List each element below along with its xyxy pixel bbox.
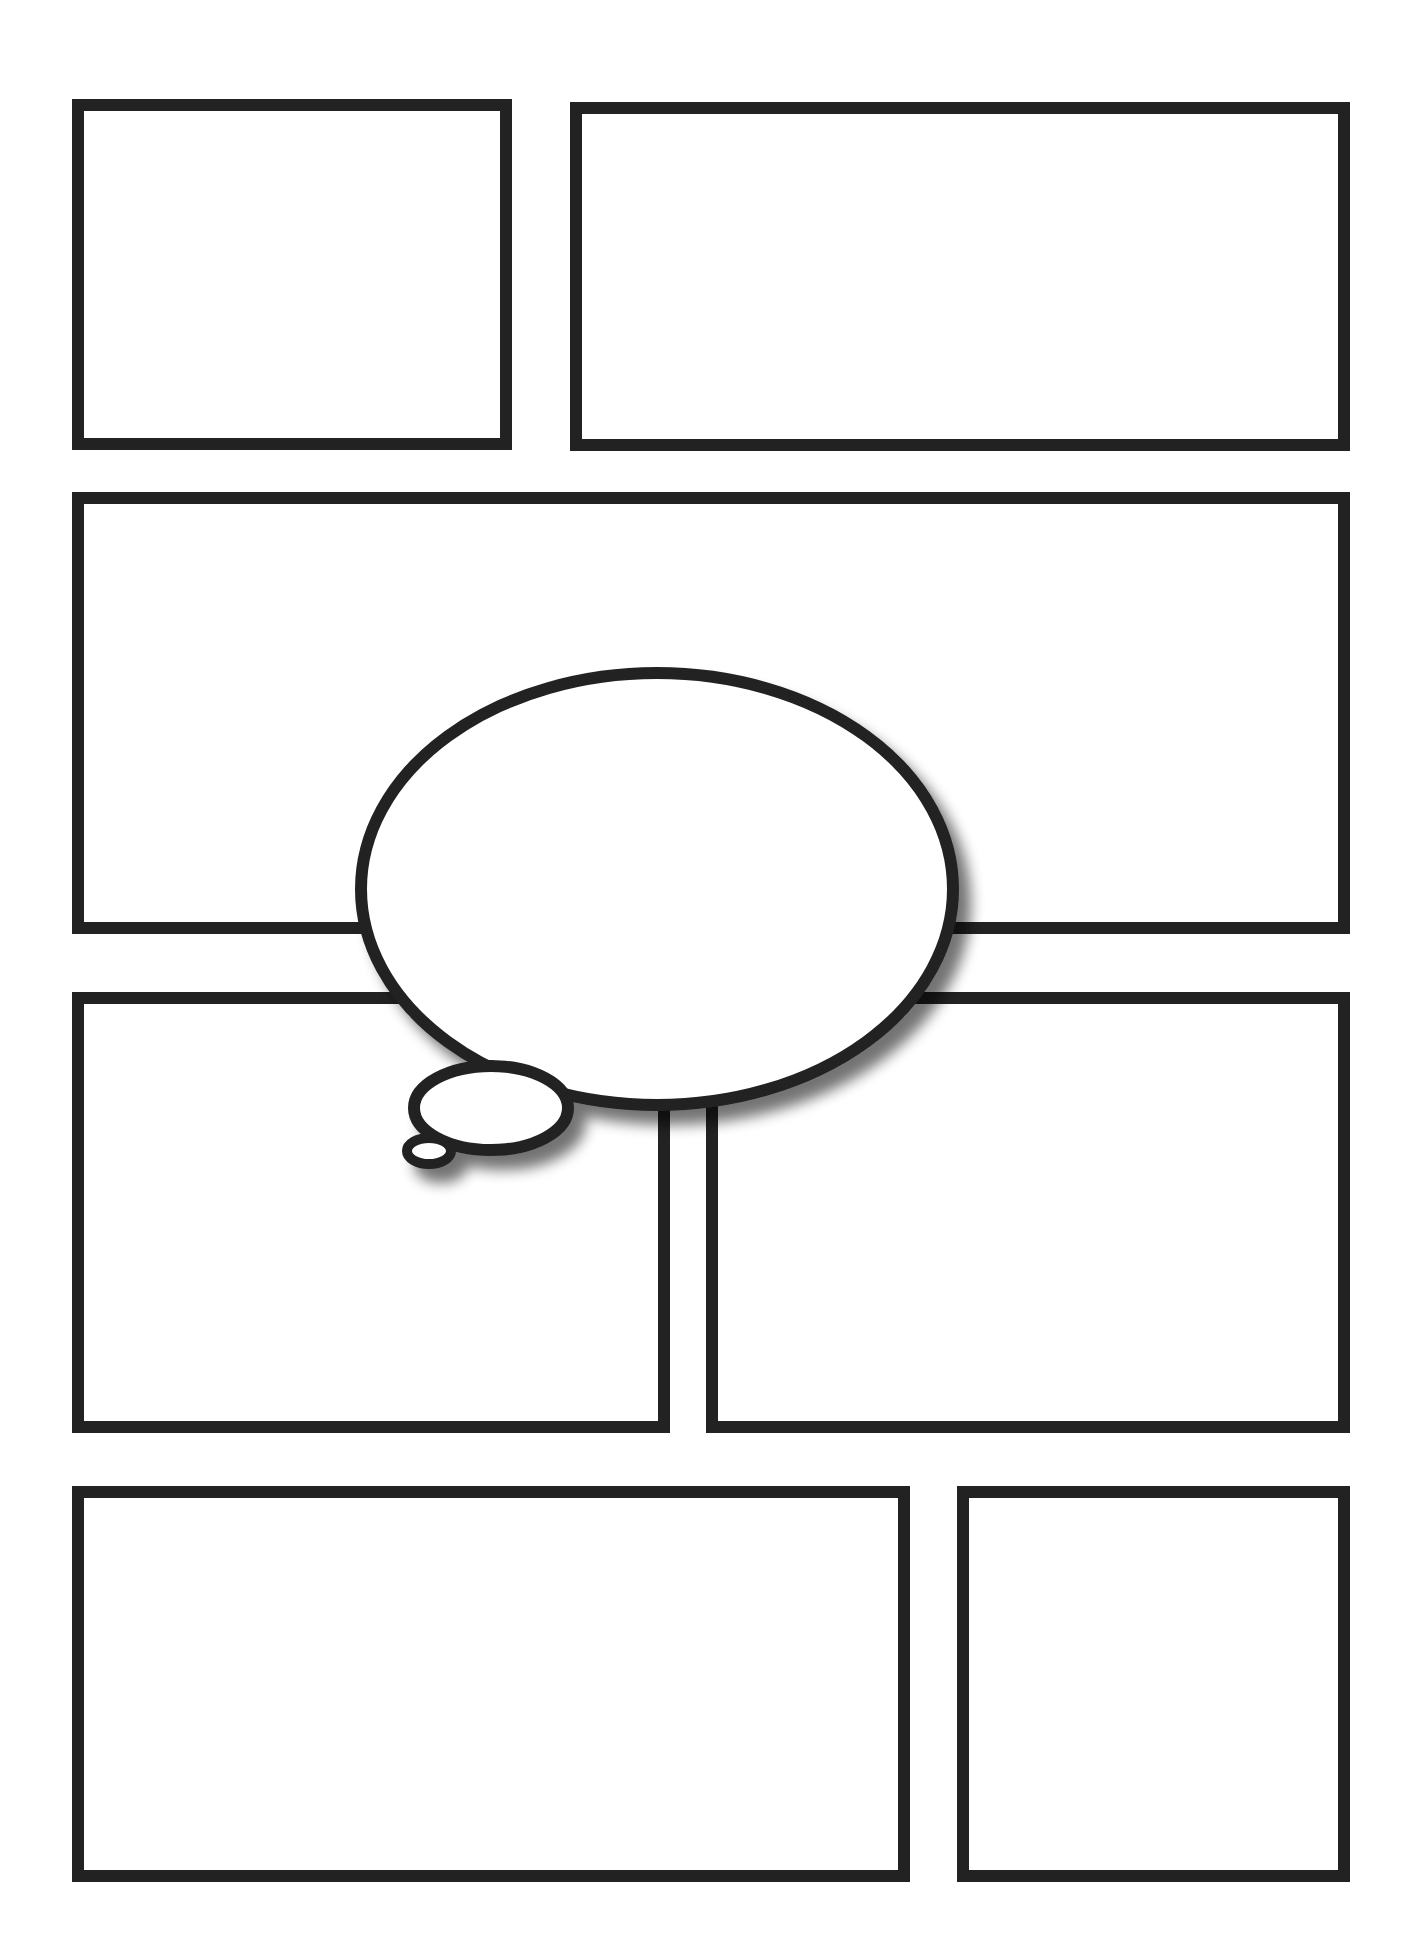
page-title: Blank comic page template <box>0 0 1 1</box>
panel-1[interactable] <box>72 99 512 450</box>
comic-page: Blank comic page template <box>0 0 1419 1941</box>
panel-4[interactable] <box>72 992 670 1433</box>
panel-3[interactable] <box>72 492 1350 934</box>
panel-6[interactable] <box>72 1486 910 1882</box>
panel-2[interactable] <box>570 102 1350 451</box>
panel-5[interactable] <box>706 992 1350 1433</box>
panel-7[interactable] <box>957 1486 1350 1882</box>
